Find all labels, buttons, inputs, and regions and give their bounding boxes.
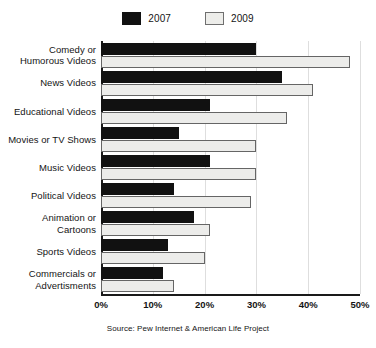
category-label: Sports Videos [0,246,96,258]
x-tick-label: 20% [185,299,225,310]
bar-2009 [101,168,256,180]
category-label: Educational Videos [0,106,96,118]
bar-group [101,267,360,292]
category-label: News Videos [0,77,96,89]
bar-2007 [101,155,210,167]
bar-group [101,155,360,180]
x-tick-label: 50% [340,299,376,310]
legend-entry-2007: 2007 [122,12,171,25]
bar-2009 [101,280,174,292]
legend-swatch-2009-icon [205,12,224,25]
legend-label-2007: 2007 [148,13,171,24]
bar-2007 [101,99,210,111]
bar-2009 [101,224,210,236]
bar-2007 [101,211,194,223]
bar-chart: 2007 2009 Comedy orHumorous VideosNews V… [0,0,376,348]
chart-legend: 2007 2009 [0,12,376,25]
x-tick-label: 40% [288,299,328,310]
bar-group [101,183,360,208]
bar-2007 [101,71,282,83]
bar-2007 [101,127,179,139]
bar-2009 [101,56,350,68]
plot-area [101,41,360,294]
source-note: Source: Pew Internet & American Life Pro… [0,324,376,333]
bar-2007 [101,267,163,279]
bar-2009 [101,196,251,208]
bar-2007 [101,43,256,55]
bar-group [101,127,360,152]
legend-swatch-2007-icon [122,12,141,25]
bar-2007 [101,239,168,251]
x-tick-label: 10% [133,299,173,310]
category-label: Comedy orHumorous Videos [0,44,96,67]
x-tick-label: 30% [236,299,276,310]
gridline [360,41,361,294]
category-axis-labels: Comedy orHumorous VideosNews VideosEduca… [0,41,96,294]
bar-group [101,43,360,68]
bar-group [101,71,360,96]
bar-2009 [101,112,287,124]
bar-group [101,99,360,124]
x-tick-label: 0% [81,299,121,310]
bar-2007 [101,183,174,195]
category-label: Movies or TV Shows [0,134,96,146]
bar-2009 [101,140,256,152]
category-label: Commercials orAdvertisments [0,268,96,291]
category-label: Political Videos [0,190,96,202]
legend-label-2009: 2009 [231,13,254,24]
legend-entry-2009: 2009 [205,12,254,25]
category-label: Music Videos [0,162,96,174]
x-axis-line [101,294,360,296]
bar-2009 [101,84,313,96]
bar-group [101,211,360,236]
category-label: Animation orCartoons [0,212,96,235]
bar-2009 [101,252,205,264]
bar-group [101,239,360,264]
